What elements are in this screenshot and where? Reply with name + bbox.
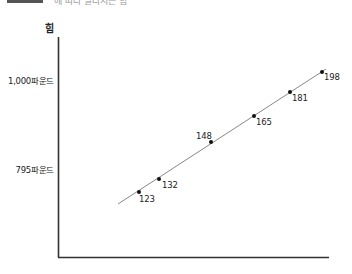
point-label: 198 — [324, 72, 340, 82]
y-tick-label-1000: 1,000파운드 — [0, 74, 54, 86]
point-label: 165 — [256, 117, 272, 127]
y-axis-label: 힘 — [45, 20, 54, 35]
point-label: 132 — [162, 180, 178, 190]
point-label: 181 — [292, 93, 308, 103]
y-tick-label-795: 795파운드 — [0, 163, 54, 175]
point-label: 148 — [196, 131, 212, 141]
chart-canvas — [0, 0, 352, 274]
point-label: 123 — [139, 194, 155, 204]
data-point — [157, 177, 161, 181]
trend-line — [118, 69, 326, 204]
